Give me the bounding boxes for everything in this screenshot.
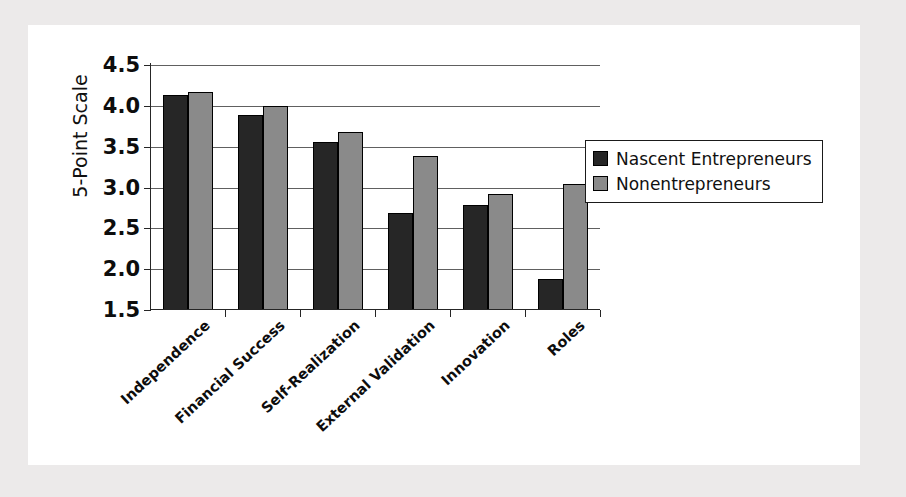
y-axis-tick: [144, 188, 151, 189]
x-axis-tick: [600, 310, 601, 317]
x-axis-category-label: Innovation: [438, 317, 513, 388]
x-axis-tick: [300, 310, 301, 317]
y-axis-tick-label: 4.5: [103, 53, 140, 77]
x-axis-tick: [525, 310, 526, 317]
y-axis-tick: [144, 65, 151, 66]
legend-label-nascent-entrepreneurs: Nascent Entrepreneurs: [616, 149, 812, 169]
y-axis-line: [150, 63, 151, 310]
legend-swatch-gray-icon: [593, 176, 608, 191]
y-axis-tick: [144, 310, 151, 311]
legend-item: Nonentrepreneurs: [593, 171, 812, 196]
x-axis-tick: [450, 310, 451, 317]
legend-swatch-dark-icon: [593, 151, 608, 166]
axis-layer: 1.52.02.53.03.54.04.5: [150, 65, 600, 310]
screenshot-root: 5-Point Scale 1.52.02.53.03.54.04.5 Inde…: [0, 0, 906, 497]
y-axis-tick-label: 2.0: [103, 257, 140, 281]
y-axis-tick-label: 4.0: [103, 94, 140, 118]
y-axis-tick: [144, 228, 151, 229]
x-axis-category-label: Roles: [544, 317, 588, 359]
legend-item: Nascent Entrepreneurs: [593, 146, 812, 171]
y-axis-tick: [144, 269, 151, 270]
plot-area: 1.52.02.53.03.54.04.5 IndependenceFinanc…: [150, 65, 600, 310]
y-axis-tick-label: 3.0: [103, 176, 140, 200]
y-axis-title: 5-Point Scale: [69, 46, 91, 226]
x-axis-tick: [375, 310, 376, 317]
legend: Nascent Entrepreneurs Nonentrepreneurs: [585, 140, 823, 203]
y-axis-tick: [144, 147, 151, 148]
chart-card: 5-Point Scale 1.52.02.53.03.54.04.5 Inde…: [28, 25, 860, 465]
y-axis-tick-label: 2.5: [103, 216, 140, 240]
y-axis-tick-label: 1.5: [103, 298, 140, 322]
y-axis-tick: [144, 106, 151, 107]
legend-label-nonentrepreneurs: Nonentrepreneurs: [616, 174, 771, 194]
y-axis-tick-label: 3.5: [103, 135, 140, 159]
x-axis-tick: [225, 310, 226, 317]
